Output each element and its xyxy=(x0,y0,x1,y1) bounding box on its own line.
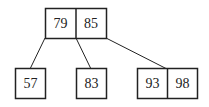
child-node-2: 83 xyxy=(77,69,107,99)
root-key-1: 79 xyxy=(54,16,68,31)
root-key-2: 85 xyxy=(84,16,98,31)
root-node: 79 85 xyxy=(46,9,107,39)
edge-root-to-child-3 xyxy=(106,38,167,69)
child-node-3: 93 98 xyxy=(138,69,198,99)
edge-root-to-child-1 xyxy=(30,38,45,69)
child-3-key-1: 93 xyxy=(146,76,160,91)
child-1-key-1: 57 xyxy=(24,76,38,91)
b-tree-diagram: 79 85 57 83 93 98 xyxy=(0,0,209,107)
child-node-1: 57 xyxy=(16,69,46,99)
child-3-key-2: 98 xyxy=(176,76,190,91)
edge-root-to-child-2 xyxy=(76,38,91,69)
child-2-key-1: 83 xyxy=(85,76,99,91)
